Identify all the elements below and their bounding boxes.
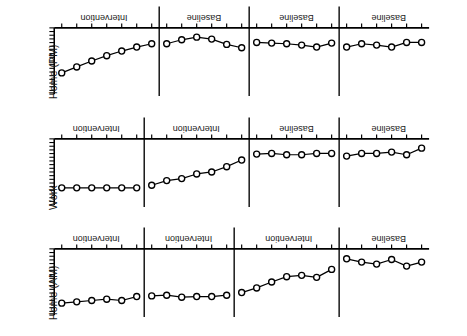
data-point-marker (269, 40, 275, 46)
data-point-marker (179, 37, 185, 43)
phase-label-intervention-4: Intervention (56, 123, 136, 134)
data-point-marker (389, 256, 395, 262)
data-point-marker (359, 41, 365, 47)
data-point-marker (164, 178, 170, 184)
panel-home-pm: BaselineBaselineBaselineInterventionHome… (0, 3, 467, 115)
data-point-marker (179, 176, 185, 182)
figure-rotator: BaselineInterventionInterventionInterven… (0, 0, 467, 336)
data-point-marker (164, 41, 170, 47)
phase-label-baseline-2: Baseline (256, 123, 336, 134)
data-point-marker (314, 150, 320, 156)
multiple-baseline-figure: BaselineInterventionInterventionInterven… (0, 0, 467, 336)
series-line-phase-1 (347, 259, 422, 266)
data-point-marker (404, 263, 410, 269)
data-point-marker (194, 294, 200, 300)
data-point-marker (374, 150, 380, 156)
data-point-marker (74, 64, 80, 70)
data-point-marker (419, 145, 425, 151)
data-point-marker (374, 42, 380, 48)
phase-label-intervention-2: Intervention (249, 233, 329, 244)
data-point-marker (89, 185, 95, 191)
plot-area-work (50, 140, 435, 208)
data-point-marker (134, 44, 140, 50)
data-point-marker (194, 171, 200, 177)
data-point-marker (179, 294, 185, 300)
data-point-marker (329, 266, 335, 272)
data-point-marker (359, 259, 365, 265)
data-point-marker (164, 292, 170, 298)
data-point-marker (89, 58, 95, 64)
y-axis-label-home-am: Home (AM) (46, 246, 60, 320)
data-point-marker (299, 272, 305, 278)
phase-label-intervention-4: Intervention (64, 12, 144, 23)
data-point-marker (74, 185, 80, 191)
data-point-marker (314, 44, 320, 50)
data-point-marker (149, 293, 155, 299)
data-point-marker (104, 296, 110, 302)
series-line-phase-2 (257, 42, 332, 47)
data-point-marker (359, 150, 365, 156)
data-point-marker (209, 36, 215, 42)
series-line-phase-1 (347, 148, 422, 156)
data-point-marker (419, 259, 425, 265)
data-point-marker (344, 153, 350, 159)
phase-label-baseline-3: Baseline (164, 12, 244, 23)
phase-label-intervention-3: Intervention (156, 123, 236, 134)
data-point-marker (284, 41, 290, 47)
data-point-marker (239, 290, 245, 296)
data-point-marker (224, 164, 230, 170)
y-axis-label-work: Work (46, 136, 60, 210)
phase-label-intervention-3: Intervention (149, 233, 229, 244)
data-point-marker (134, 185, 140, 191)
data-point-marker (254, 39, 260, 45)
data-point-marker (254, 285, 260, 291)
data-point-marker (119, 297, 125, 303)
series-line-phase-3 (167, 37, 242, 48)
data-point-marker (224, 41, 230, 47)
data-point-marker (389, 149, 395, 155)
data-point-marker (284, 152, 290, 158)
data-point-marker (239, 45, 245, 51)
panel-work: BaselineBaselineInterventionIntervention… (0, 114, 467, 226)
series-line-phase-4 (62, 297, 137, 304)
series-line-phase-3 (152, 295, 227, 297)
data-point-marker (89, 297, 95, 303)
data-point-marker (344, 256, 350, 262)
data-point-marker (419, 39, 425, 45)
data-point-marker (194, 34, 200, 40)
phase-label-baseline-2: Baseline (256, 12, 336, 23)
data-point-marker (284, 274, 290, 280)
data-point-marker (299, 42, 305, 48)
data-point-marker (404, 39, 410, 45)
panel-home-am: BaselineInterventionInterventionInterven… (0, 224, 467, 336)
data-point-marker (104, 53, 110, 59)
data-point-marker (299, 152, 305, 158)
data-point-marker (119, 48, 125, 54)
data-point-marker (74, 299, 80, 305)
plot-area-home-pm (50, 29, 435, 97)
data-point-marker (224, 292, 230, 298)
data-point-marker (239, 157, 245, 163)
data-point-marker (314, 274, 320, 280)
data-point-marker (269, 279, 275, 285)
plot-area-home-am (50, 250, 435, 318)
phase-label-baseline-1: Baseline (349, 123, 429, 134)
series-line-phase-1 (347, 42, 422, 47)
data-point-marker (404, 152, 410, 158)
data-point-marker (329, 150, 335, 156)
data-point-marker (329, 40, 335, 46)
data-point-marker (374, 261, 380, 267)
data-point-marker (344, 44, 350, 50)
y-axis-label-home-pm: Home (PM) (46, 25, 60, 99)
data-point-marker (119, 185, 125, 191)
data-point-marker (149, 182, 155, 188)
data-point-marker (254, 151, 260, 157)
data-point-marker (149, 41, 155, 47)
phase-label-baseline-1: Baseline (349, 12, 429, 23)
data-point-marker (134, 294, 140, 300)
data-point-marker (209, 169, 215, 175)
data-point-marker (269, 150, 275, 156)
data-point-marker (389, 44, 395, 50)
series-line-phase-2 (257, 153, 332, 154)
phase-label-baseline-1: Baseline (349, 233, 429, 244)
